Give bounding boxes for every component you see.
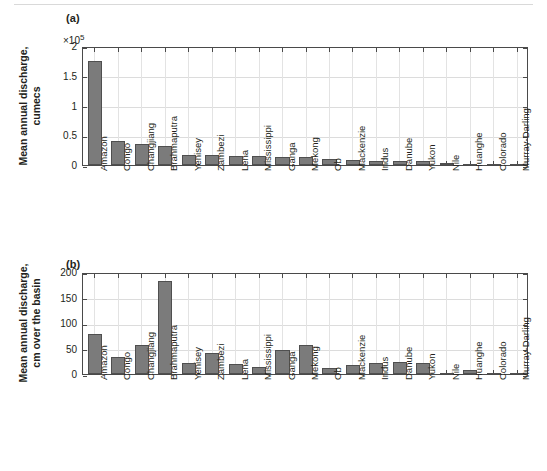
gridline-vertical	[306, 48, 307, 165]
y-axis-tick-mark	[83, 325, 87, 326]
x-axis-category-label: Mississippi	[262, 334, 273, 380]
x-axis-category-label: Nile	[450, 364, 461, 380]
panel-a-y-axis-label: Mean annual discharge, cumecs	[17, 31, 43, 181]
gridline-vertical	[470, 274, 471, 374]
gridline-vertical	[470, 48, 471, 165]
x-axis-category-label: Danube	[403, 138, 414, 171]
gridline-vertical	[517, 48, 518, 165]
y-axis-tick-label: 50	[43, 344, 77, 355]
x-axis-tick-mark-top	[188, 48, 189, 52]
x-axis-category-label: Colorado	[497, 341, 508, 380]
x-axis-category-label: Murray-Darling	[520, 108, 531, 171]
y-axis-tick-label: 0.5	[43, 130, 77, 141]
x-axis-tick-mark-top	[446, 274, 447, 278]
gridline-vertical	[446, 274, 447, 374]
x-axis-tick-mark-top	[306, 48, 307, 52]
x-axis-category-label: Ganga	[286, 142, 297, 171]
x-axis-tick-mark-top	[282, 48, 283, 52]
gridline-vertical	[493, 274, 494, 374]
x-axis-category-label: Murray-Darling	[520, 317, 531, 380]
gridline-vertical	[493, 48, 494, 165]
y-axis-tick-label: 0	[43, 369, 77, 380]
x-axis-category-label: Congo	[121, 352, 132, 380]
gridline-vertical	[259, 48, 260, 165]
gridline-vertical	[352, 274, 353, 374]
panel-a-tag: (a)	[66, 12, 80, 24]
x-axis-category-label: Yenisey	[192, 138, 203, 171]
x-axis-tick-mark-top	[259, 274, 260, 278]
gridline-vertical	[188, 274, 189, 374]
y-axis-tick-mark	[83, 167, 87, 168]
x-axis-category-label: Indus	[379, 148, 390, 171]
gridline-vertical	[376, 274, 377, 374]
x-axis-category-label: Brahmaputra	[168, 325, 179, 380]
gridline-vertical	[352, 48, 353, 165]
y-axis-tick-mark	[83, 350, 87, 351]
x-axis-tick-mark-top	[329, 48, 330, 52]
x-axis-category-label: Mekong	[309, 137, 320, 171]
x-axis-category-label: Yenisey	[192, 347, 203, 380]
x-axis-category-label: Ob	[332, 158, 343, 171]
gridline-vertical	[188, 48, 189, 165]
y-axis-tick-label: 0	[43, 160, 77, 171]
x-axis-tick-mark-top	[118, 48, 119, 52]
top-divider-rule	[14, 4, 533, 5]
x-axis-category-label: Indus	[379, 357, 390, 380]
x-axis-tick-mark-top	[165, 48, 166, 52]
x-axis-tick-mark-top	[376, 274, 377, 278]
panel-b-y-axis-label: Mean annual discharge, cm over the basin	[17, 248, 43, 398]
x-axis-tick-mark-top	[212, 48, 213, 52]
x-axis-tick-mark-top	[94, 274, 95, 278]
y-axis-tick-label: 150	[43, 293, 77, 304]
x-axis-tick-mark-top	[399, 48, 400, 52]
y-axis-tick-mark	[83, 48, 87, 49]
gridline-vertical	[235, 48, 236, 165]
x-axis-tick-mark-top	[235, 48, 236, 52]
x-axis-tick-mark-top	[470, 48, 471, 52]
gridline-vertical	[329, 274, 330, 374]
x-axis-category-label: Congo	[121, 143, 132, 171]
gridline-vertical	[212, 48, 213, 165]
y-axis-tick-label: 100	[43, 318, 77, 329]
y-axis-tick-label: 1	[43, 101, 77, 112]
x-axis-tick-mark-top	[141, 274, 142, 278]
x-axis-tick-mark-top	[306, 274, 307, 278]
x-axis-tick-mark-top	[470, 274, 471, 278]
x-axis-category-label: Ob	[332, 367, 343, 380]
y-axis-tick-mark-right	[523, 299, 527, 300]
x-axis-category-label: Ganga	[286, 351, 297, 380]
x-axis-tick-mark-top	[517, 274, 518, 278]
y-axis-tick-mark	[83, 376, 87, 377]
gridline-vertical	[517, 274, 518, 374]
figure-page: (a) Mean annual discharge, cumecs ×105 (…	[0, 0, 547, 471]
x-axis-tick-mark-top	[423, 274, 424, 278]
gridline-vertical	[376, 48, 377, 165]
x-axis-tick-mark-top	[352, 48, 353, 52]
x-axis-category-label: Mekong	[309, 346, 320, 380]
gridline-vertical	[259, 274, 260, 374]
x-axis-tick-mark-top	[352, 274, 353, 278]
x-axis-tick-mark-top	[259, 48, 260, 52]
y-axis-tick-label: 1.5	[43, 71, 77, 82]
y-axis-tick-mark	[83, 299, 87, 300]
x-axis-tick-mark-top	[235, 274, 236, 278]
y-axis-tick-label: 2	[43, 41, 77, 52]
x-axis-category-label: Huanghe	[473, 341, 484, 380]
x-axis-category-label: Amazon	[98, 136, 109, 171]
x-axis-category-label: Mackenzie	[356, 335, 367, 380]
gridline-vertical	[329, 48, 330, 165]
y-axis-tick-mark-right	[523, 48, 527, 49]
x-axis-category-label: Colorado	[497, 132, 508, 171]
y-axis-tick-mark-right	[523, 77, 527, 78]
x-axis-category-label: Mississippi	[262, 125, 273, 171]
x-axis-category-label: Mackenzie	[356, 126, 367, 171]
x-axis-tick-mark-top	[141, 48, 142, 52]
x-axis-tick-mark-top	[282, 274, 283, 278]
x-axis-tick-mark-top	[94, 48, 95, 52]
x-axis-category-label: Changjiang	[145, 332, 156, 380]
x-axis-tick-mark-top	[493, 274, 494, 278]
x-axis-tick-mark-top	[118, 274, 119, 278]
y-axis-tick-mark	[83, 274, 87, 275]
y-axis-tick-mark	[83, 77, 87, 78]
x-axis-category-label: Danube	[403, 347, 414, 380]
